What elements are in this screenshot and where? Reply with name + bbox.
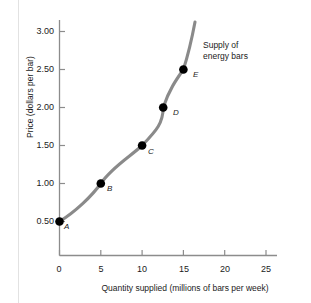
data-point-B	[97, 179, 106, 188]
data-point-C	[138, 141, 147, 150]
data-point-D	[159, 103, 168, 112]
supply-curve-figure: Price (dollars per bar) 3.00 2.50 2.00 1…	[0, 0, 311, 303]
data-point-E	[179, 65, 188, 74]
plot-area	[0, 0, 311, 303]
data-point-A	[55, 217, 64, 226]
supply-curve-line	[60, 22, 196, 222]
y-tick-marks	[60, 32, 66, 222]
x-tick-marks	[60, 250, 267, 256]
